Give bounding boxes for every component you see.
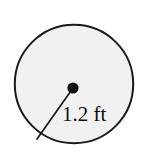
circle-radius-diagram: 1.2 ft	[0, 0, 145, 165]
center-point-dot	[67, 82, 78, 93]
diagram-canvas: 1.2 ft	[0, 0, 145, 165]
radius-measure-label: 1.2 ft	[62, 102, 106, 126]
